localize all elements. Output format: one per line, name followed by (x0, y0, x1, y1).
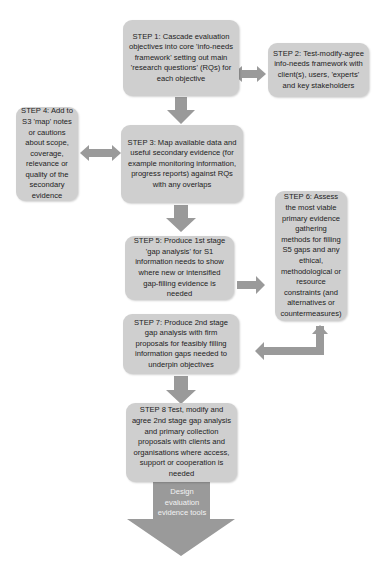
step-6-box: STEP 6: Assess the most viable primary e… (275, 191, 347, 321)
step-7-box: STEP 7: Produce 2nd stage gap analysis w… (123, 314, 239, 374)
down-arrow-step3-step5 (166, 205, 196, 232)
right-arrow-step5-step6 (237, 276, 265, 294)
step-5-text: STEP 5: Produce 1st stage 'gap analysis'… (130, 236, 229, 300)
elbow-arrow-step6-step7 (255, 326, 324, 360)
step-6-text: STEP 6: Assess the most viable primary e… (280, 192, 342, 319)
double-arrow-step3-step4 (80, 145, 121, 161)
step-7-text: STEP 7: Produce 2nd stage gap analysis w… (128, 318, 234, 371)
step-3-box: STEP 3: Map available data and useful se… (121, 125, 243, 203)
step-4-text: STEP 4: Add to S3 'map' notes or caution… (21, 106, 73, 201)
step-8-text: STEP 8 Test, modify and agree 2nd stage … (131, 405, 232, 479)
step-8-box: STEP 8 Test, modify and agree 2nd stage … (126, 403, 237, 482)
step-2-box: STEP 2: Test-modify-agree info-needs fra… (268, 43, 369, 97)
step-1-text: STEP 1: Cascade evaluation objectives in… (128, 32, 234, 85)
step-5-box: STEP 5: Produce 1st stage 'gap analysis'… (125, 236, 234, 300)
step-4-box: STEP 4: Add to S3 'map' notes or caution… (16, 107, 78, 201)
step-1-box: STEP 1: Cascade evaluation objectives in… (123, 20, 239, 96)
step-3-text: STEP 3: Map available data and useful se… (126, 138, 238, 191)
down-arrow-step1-step3 (167, 97, 195, 124)
down-arrow-step7-step8 (166, 376, 196, 404)
final-output-label: Design evaluation evidence tools (152, 487, 212, 519)
step-2-text: STEP 2: Test-modify-agree info-needs fra… (273, 49, 364, 91)
